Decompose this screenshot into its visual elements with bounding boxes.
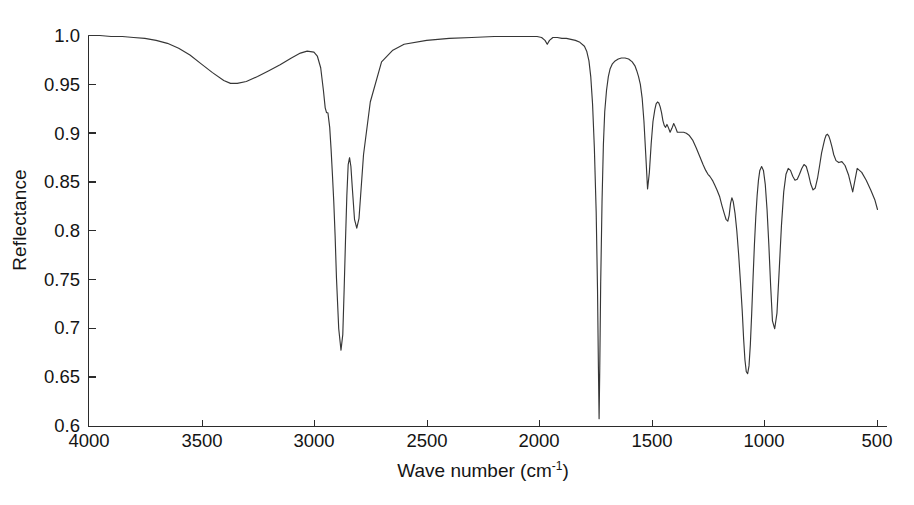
y-tick-marks <box>89 36 96 427</box>
reflectance-spectrum-figure: Reflectance 1.0 0.95 0.9 0.85 0.8 0.75 0… <box>0 0 914 505</box>
spectrum-curve <box>89 36 878 419</box>
x-tick-marks <box>89 420 878 427</box>
spectrum-plot-area <box>0 0 914 505</box>
